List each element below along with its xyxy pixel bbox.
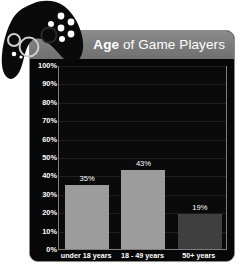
bar-slot: 35% (59, 66, 115, 249)
bar-series: 35%43%19% (59, 66, 226, 249)
bar-slot: 19% (172, 66, 228, 249)
x-axis: under 18 years18 - 49 years50+ years (58, 251, 227, 261)
chart-body: 100%90%80%70%60%50%40%30%20%10%0% 35%43%… (30, 59, 234, 261)
y-axis-tick: 70% (30, 117, 57, 125)
x-axis-label: 50+ years (171, 251, 227, 261)
y-axis-tick: 100% (30, 62, 57, 70)
title-strong: Age (93, 37, 119, 52)
chart-header-bar: Age of Game Players (30, 31, 234, 59)
y-axis-tick: 20% (30, 209, 57, 217)
y-axis-tick: 60% (30, 136, 57, 144)
page-title: Age of Game Players (93, 36, 225, 54)
title-rest: of Game Players (119, 37, 225, 52)
y-axis-tick: 0% (30, 246, 57, 254)
x-axis-label: 18 - 49 years (114, 251, 170, 261)
y-axis-tick: 30% (30, 191, 57, 199)
infographic-root: Age of Game Players 100%90%80%70%60%50%4… (0, 0, 243, 272)
bar[interactable] (65, 185, 109, 249)
y-axis: 100%90%80%70%60%50%40%30%20%10%0% (30, 66, 57, 250)
y-axis-tick: 50% (30, 154, 57, 162)
x-axis-label: under 18 years (58, 251, 114, 261)
y-axis-tick: 90% (30, 80, 57, 88)
y-axis-tick: 80% (30, 99, 57, 107)
plot-area: 35%43%19% (58, 66, 227, 250)
bar[interactable] (178, 214, 222, 249)
bar-slot: 43% (115, 66, 171, 249)
bar-value-label: 19% (158, 203, 234, 212)
y-axis-tick: 10% (30, 228, 57, 236)
